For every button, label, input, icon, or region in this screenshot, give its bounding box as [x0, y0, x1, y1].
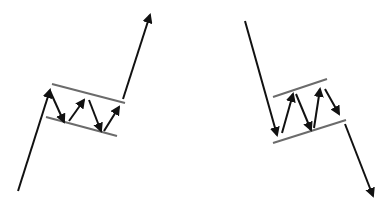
zigzag-arrow	[69, 100, 84, 121]
zigzag-arrow	[296, 94, 311, 130]
zigzag-arrow	[325, 89, 339, 114]
channel-upper-line	[52, 84, 125, 103]
flagpole-arrow	[18, 90, 50, 191]
bear-flag-pattern	[245, 21, 373, 196]
zigzag-arrow	[104, 107, 119, 131]
breakout-arrow	[123, 15, 150, 99]
flag-patterns-diagram	[0, 0, 388, 211]
zigzag-arrow	[89, 100, 101, 131]
zigzag-arrow	[50, 91, 64, 122]
zigzag-arrow	[314, 89, 320, 128]
zigzag-arrow	[282, 94, 293, 133]
breakdown-arrow	[345, 124, 373, 196]
bull-flag-pattern	[18, 15, 150, 191]
flagpole-arrow	[245, 21, 277, 135]
